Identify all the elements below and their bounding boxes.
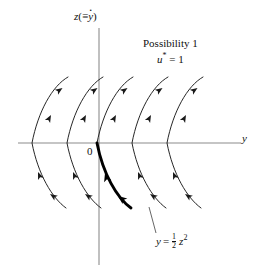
origin-label: 0 xyxy=(87,146,93,157)
annotation-line-2: u* = 1 xyxy=(143,52,198,68)
curve-equation-denominator: 2 xyxy=(172,241,176,250)
trajectory-curve-3-upper xyxy=(97,77,133,143)
curve-equation-numerator: 1 xyxy=(172,233,176,241)
curve-equation-rhs-term: z2 xyxy=(179,236,187,247)
annotation-block: Possibility 1 u* = 1 xyxy=(143,36,198,68)
annotation-line-1: Possibility 1 xyxy=(143,37,198,49)
curve-equation-exponent: 2 xyxy=(183,234,187,243)
equation-leader-line xyxy=(149,207,156,233)
vertical-axis-label: z(≡y) xyxy=(74,11,97,22)
phase-plane-plot xyxy=(0,0,258,272)
phase-plane-figure: z(≡y) y 0 Possibility 1 u* = 1 y = 1 2 z… xyxy=(0,0,258,272)
arrowhead-up-4a xyxy=(145,114,154,123)
curve-equation-lhs: y xyxy=(156,236,161,247)
arrowhead-up-3a xyxy=(110,114,119,123)
vertical-axis-label-dotted-var: y xyxy=(88,11,93,22)
curve-equation-fraction: 1 2 xyxy=(172,233,176,251)
flow-arrowheads-upper xyxy=(45,85,199,123)
axes-group xyxy=(18,28,241,265)
arrowhead-up-1a xyxy=(45,114,54,123)
arrowhead-up-5a xyxy=(180,114,189,123)
horizontal-axis-label: y xyxy=(242,133,247,144)
curve-equation-label: y = 1 2 z2 xyxy=(156,233,187,251)
curve-equation-equals: = xyxy=(163,236,169,247)
vertical-axis-label-paren-close: ) xyxy=(93,10,97,22)
arrowhead-up-2a xyxy=(80,114,89,123)
annotation-control-value: = 1 xyxy=(167,53,184,65)
